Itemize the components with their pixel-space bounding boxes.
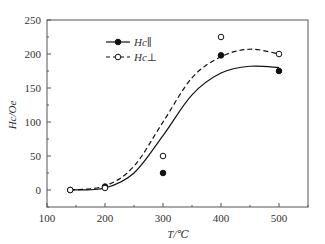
x-tick-label: 500 bbox=[271, 212, 288, 224]
y-axis-label: Hc/Oe bbox=[6, 101, 18, 131]
data-point bbox=[160, 170, 166, 176]
data-point bbox=[160, 153, 166, 159]
x-tick-label: 300 bbox=[155, 212, 172, 224]
y-tick-label: 0 bbox=[36, 184, 42, 196]
y-tick-label: 250 bbox=[25, 14, 42, 26]
data-point bbox=[218, 53, 224, 59]
y-tick-label: 150 bbox=[25, 82, 42, 94]
data-point bbox=[218, 34, 224, 40]
coercivity-chart: 100200300400500050100150200250T/℃Hc/Oe H… bbox=[0, 0, 325, 244]
y-tick-label: 50 bbox=[30, 150, 42, 162]
x-tick-label: 100 bbox=[39, 212, 56, 224]
data-point bbox=[276, 51, 282, 57]
data-point bbox=[67, 187, 73, 193]
x-tick-label: 400 bbox=[213, 212, 230, 224]
data-point bbox=[276, 68, 282, 74]
data-point bbox=[102, 185, 108, 191]
legend-entry: Hc∥ bbox=[133, 36, 152, 48]
x-axis-label: T/℃ bbox=[167, 228, 189, 240]
series-curve bbox=[70, 66, 279, 190]
y-tick-label: 100 bbox=[25, 116, 42, 128]
legend-entry: Hc⊥ bbox=[133, 51, 157, 63]
y-tick-label: 200 bbox=[25, 48, 42, 60]
x-tick-label: 200 bbox=[97, 212, 114, 224]
